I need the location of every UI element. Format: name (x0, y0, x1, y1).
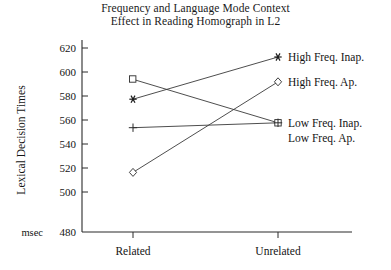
legend-label-high-freq-inap: High Freq. Inap. (288, 51, 364, 64)
square-icon (130, 76, 136, 82)
y-axis-unit-label: msec (21, 227, 43, 238)
y-tick-label-480: 480 (60, 226, 77, 238)
x-tick-label-related: Related (115, 245, 150, 257)
legend-label-low-freq-inap: Low Freq. Inap. (288, 117, 362, 130)
series-line-high-freq-inap (133, 57, 278, 99)
asterisk-icon (274, 53, 281, 60)
series-line-low-freq-inap (133, 79, 278, 123)
y-tick-label-620: 620 (60, 42, 77, 54)
y-tick-label-580: 580 (60, 90, 77, 102)
plus-icon (129, 124, 137, 132)
y-axis-label: Lexical Decision Times (15, 85, 27, 195)
x-tick-label-unrelated: Unrelated (255, 245, 301, 257)
chart-figure: Frequency and Language Mode Context Effe… (0, 0, 391, 270)
chart-plot-area: Lexical Decision Times msec 620 600 580 … (0, 0, 391, 270)
diamond-icon (274, 78, 281, 86)
legend-label-high-freq-ap: High Freq. Ap. (288, 76, 357, 89)
diamond-icon (129, 168, 136, 176)
y-tick-label-540: 540 (60, 138, 77, 150)
y-tick-label-560: 560 (60, 114, 77, 126)
asterisk-icon (129, 96, 136, 103)
legend-label-low-freq-ap: Low Freq. Ap. (288, 132, 355, 145)
y-tick-label-600: 600 (60, 66, 77, 78)
y-tick-label-520: 520 (60, 162, 77, 174)
y-tick-label-500: 500 (60, 186, 77, 198)
